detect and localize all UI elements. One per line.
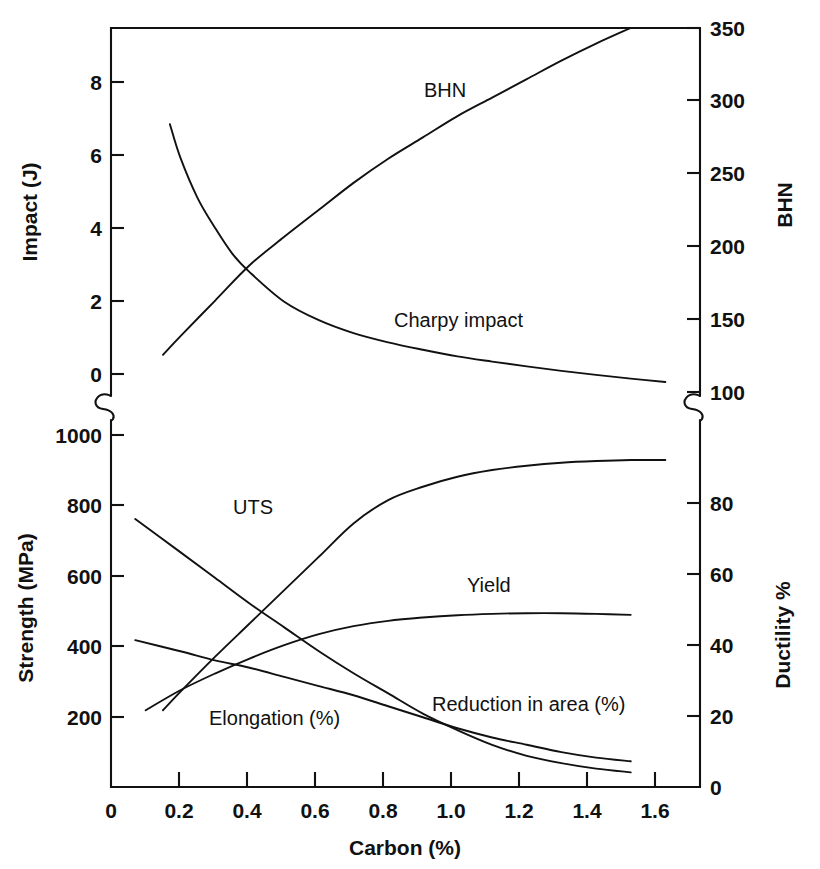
ticklabel-bhn-150: 150 (710, 308, 745, 331)
ticklabel-bhn-350: 350 (710, 17, 745, 40)
label-bhn: BHN (424, 79, 466, 101)
ticklabel-ductility-20: 20 (710, 705, 733, 728)
label-charpy: Charpy impact (394, 309, 523, 331)
ticklabel-impact-4: 4 (90, 217, 102, 240)
ticklabel-ductility-60: 60 (710, 563, 733, 586)
ticklabel-bhn-250: 250 (710, 162, 745, 185)
label-uts: UTS (233, 496, 273, 518)
ticklabel-ductility-0: 0 (710, 776, 722, 799)
ticklabel-carbon-08: 0.8 (368, 799, 398, 822)
ticklabel-carbon-12: 1.2 (504, 799, 533, 822)
ticklabel-impact-6: 6 (90, 144, 102, 167)
ticklabel-carbon-10: 1.0 (436, 799, 465, 822)
label-yield: Yield (467, 574, 511, 596)
ticklabel-carbon-02: 0.2 (164, 799, 193, 822)
x-axis-ticklabels: 0 0.2 0.4 0.6 0.8 1.0 1.2 1.4 1.6 (105, 799, 669, 822)
label-elongation: Elongation (%) (209, 707, 340, 729)
lower-left-axis-title: Strength (MPa) (14, 533, 37, 682)
ticklabel-impact-2: 2 (90, 290, 102, 313)
upper-left-axis-title: Impact (J) (18, 162, 41, 261)
ticklabel-carbon-04: 0.4 (232, 799, 262, 822)
carbon-properties-chart: 8 6 4 2 0 Impact (J) 350 300 250 200 150… (0, 0, 820, 869)
ticklabel-bhn-200: 200 (710, 235, 745, 258)
ticklabel-strength-400: 400 (67, 635, 102, 658)
ticklabel-ductility-40: 40 (710, 634, 733, 657)
ticklabel-impact-0: 0 (90, 363, 102, 386)
ticklabel-ductility-80: 80 (710, 492, 733, 515)
ticklabel-carbon-0: 0 (105, 799, 117, 822)
ticklabel-carbon-16: 1.6 (640, 799, 669, 822)
ticklabel-strength-800: 800 (67, 494, 102, 517)
ticklabel-strength-1000: 1000 (55, 424, 102, 447)
ticklabel-carbon-06: 0.6 (300, 799, 329, 822)
lower-right-axis-title: Ductility % (771, 581, 794, 689)
upper-right-axis-title: BHN (773, 182, 796, 228)
ticklabel-strength-600: 600 (67, 565, 102, 588)
label-reduction: Reduction in area (%) (432, 693, 625, 715)
chart-figure: 8 6 4 2 0 Impact (J) 350 300 250 200 150… (0, 0, 820, 869)
ticklabel-bhn-300: 300 (710, 89, 745, 112)
ticklabel-carbon-14: 1.4 (572, 799, 602, 822)
x-axis-title: Carbon (%) (349, 836, 461, 859)
ticklabel-bhn-100: 100 (710, 381, 745, 404)
ticklabel-strength-200: 200 (67, 706, 102, 729)
ticklabel-impact-8: 8 (90, 71, 102, 94)
